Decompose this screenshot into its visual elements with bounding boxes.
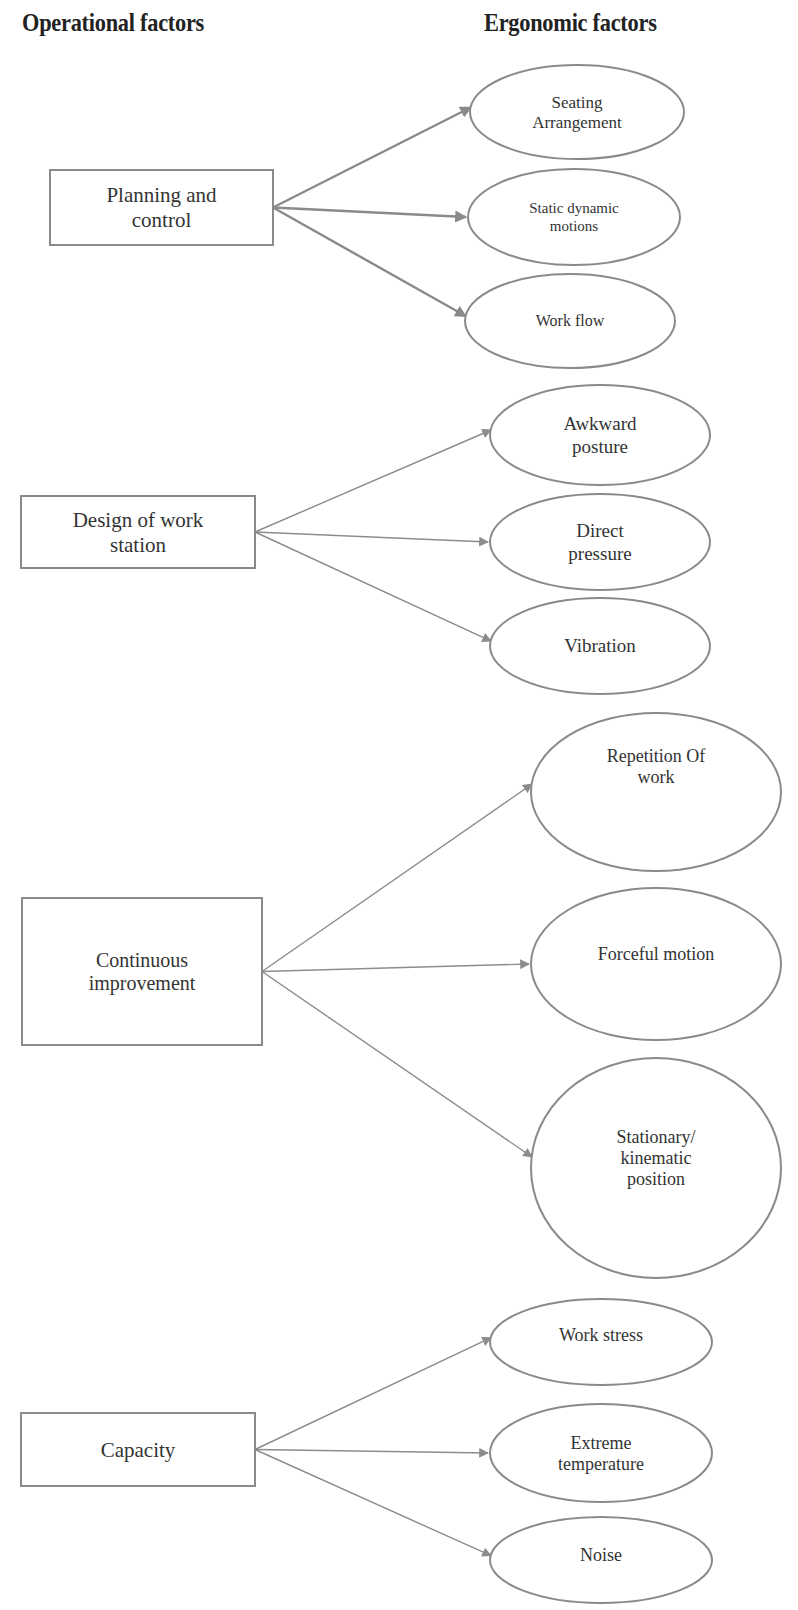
node-label-line: Continuous [96, 949, 188, 971]
node-label-line: Work stress [559, 1325, 643, 1345]
node-label-line: Noise [580, 1545, 622, 1565]
arrow-icon [273, 208, 466, 317]
factor-group-capacity: Capacity [21, 1413, 255, 1486]
node-label-line: Vibration [564, 635, 636, 656]
node-label-line: position [627, 1169, 685, 1189]
node-label-line: improvement [89, 972, 196, 995]
node-label-line: Design of work [73, 508, 204, 532]
node-label-line: Direct [576, 520, 624, 541]
node-label-line: control [132, 208, 192, 232]
arrow-icon [273, 208, 466, 218]
node-label-line: Static dynamic [529, 200, 619, 216]
node-label-line: Arrangement [532, 113, 622, 132]
factor-group-planning: Planning andcontrol [50, 170, 273, 245]
factors-diagram: Planning andcontrolSeatingArrangementSta… [0, 0, 798, 1610]
node-label-line: Stationary/ [617, 1127, 696, 1147]
node-label-line: temperature [558, 1454, 644, 1474]
arrow-icon [255, 532, 488, 542]
arrow-icon [262, 784, 532, 971]
diagram-nodes: Planning andcontrolSeatingArrangementSta… [21, 65, 781, 1603]
arrow-icon [255, 1338, 491, 1450]
node-label-line: Repetition Of [607, 746, 705, 766]
node-label-line: Work flow [536, 312, 605, 329]
arrow-icon [255, 430, 491, 532]
node-label-line: Capacity [101, 1438, 176, 1462]
node-label-line: kinematic [621, 1148, 692, 1168]
ergonomic-factor-repetition-of-work [531, 713, 781, 871]
arrow-icon [255, 1450, 491, 1556]
arrow-icon [255, 1450, 488, 1454]
node-label-line: pressure [568, 543, 631, 564]
node-label-line: Seating [552, 93, 603, 112]
arrow-icon [255, 532, 491, 641]
node-label-line: motions [550, 218, 599, 234]
arrow-icon [273, 107, 471, 207]
node-label-line: work [638, 767, 675, 787]
arrow-icon [262, 972, 532, 1158]
node-label-line: posture [572, 436, 628, 457]
factor-group-continuous: Continuousimprovement [22, 898, 262, 1045]
factor-group-design: Design of workstation [21, 496, 255, 568]
node-label-line: Extreme [571, 1433, 632, 1453]
node-label-line: station [110, 533, 166, 557]
node-label-line: Awkward [563, 413, 637, 434]
node-label-line: Forceful motion [598, 944, 714, 964]
arrow-icon [262, 964, 529, 972]
node-label-line: Planning and [106, 183, 217, 207]
